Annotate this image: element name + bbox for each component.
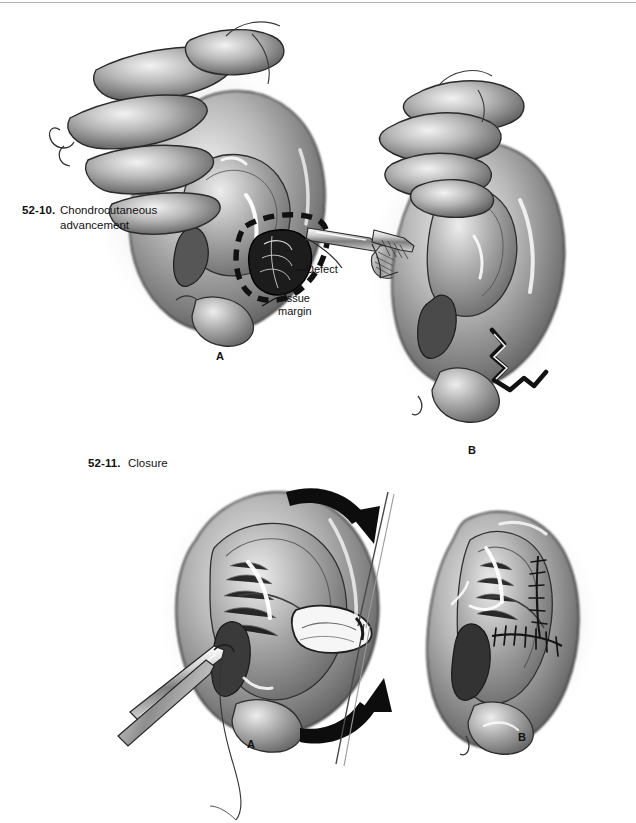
fig-52-10-panel-b-art — [365, 71, 575, 423]
illustration-artwork — [0, 0, 636, 823]
advancement-arrow-bottom — [300, 678, 392, 744]
suture-needle-a — [336, 492, 394, 766]
page-top-rule — [0, 2, 636, 3]
defect-lesion — [249, 230, 312, 295]
annotation-tissue-margin-line2: margin — [278, 305, 312, 318]
tissue-margin-outline — [236, 215, 327, 301]
panel-letter-fig2-a: A — [247, 738, 255, 750]
panel-letter-fig2-b: B — [518, 731, 526, 743]
panel-letter-fig1-b: B — [468, 444, 476, 456]
figure-title-52-10-line2: advancement — [60, 219, 129, 231]
figure-title-52-10-line1: Chondrocutaneous — [60, 204, 157, 216]
panel-letter-fig1-a: A — [216, 350, 224, 362]
zigzag-wound-edge-b — [492, 330, 546, 390]
figure-title-52-11-line1: Closure — [128, 457, 168, 469]
forceps-instrument-a2 — [118, 645, 234, 746]
annotation-tissue-margin: Tissue margin — [278, 292, 312, 318]
atlas-page: 52-10. Chondrocutaneous advancement 52-1… — [0, 0, 636, 823]
advancement-arrow-top — [286, 488, 380, 544]
retractor-fingers-b — [379, 71, 524, 218]
figure-number-52-10: 52-10. — [22, 204, 55, 216]
suture-thread — [220, 660, 241, 820]
fig-52-11-panel-b-art — [420, 502, 604, 755]
fig-52-11-panel-a-art — [118, 475, 394, 820]
retractor-fingers-a — [50, 22, 284, 234]
advancement-flap-edge — [292, 606, 372, 653]
leader-tissue-margin — [262, 298, 276, 306]
fig-52-10-panel-a-art — [50, 22, 406, 346]
suture-line-closed — [492, 556, 562, 656]
annotation-defect: Defect — [306, 263, 338, 276]
instrument-b — [372, 230, 414, 278]
figure-number-52-11: 52-11. — [88, 457, 121, 469]
annotation-tissue-margin-line1: Tissue — [278, 292, 312, 305]
annotation-defect-label: Defect — [306, 263, 338, 275]
